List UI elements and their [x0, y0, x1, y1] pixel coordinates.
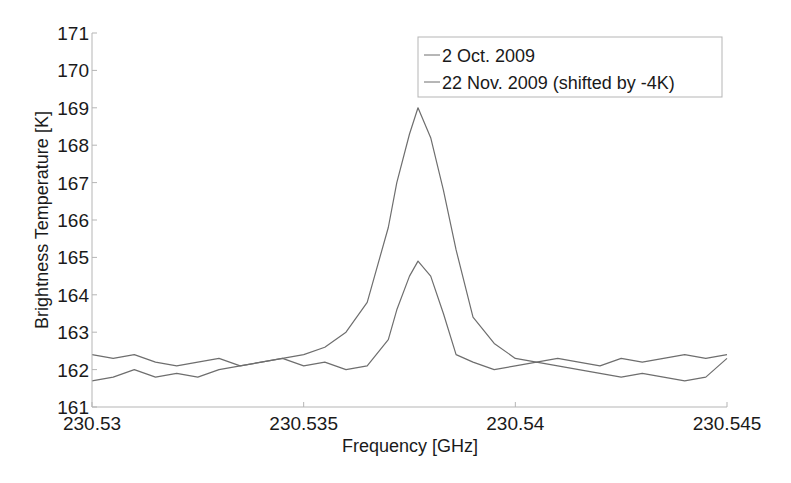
legend-label-oct: 2 Oct. 2009 [442, 46, 535, 66]
y-tick-label: 167 [57, 173, 89, 194]
x-tick-label: 230.54 [486, 413, 545, 434]
series-layer [92, 108, 727, 381]
y-axis-title: Brightness Temperature [K] [32, 111, 52, 329]
series-line-oct-2009 [92, 261, 727, 381]
x-tick-label: 230.545 [693, 413, 762, 434]
y-tick-label: 169 [57, 98, 89, 119]
x-tick-label: 230.535 [269, 413, 338, 434]
y-tick-label: 163 [57, 322, 89, 343]
chart: 161162163164165166167168169170171 230.53… [0, 0, 791, 483]
y-tick-label: 166 [57, 210, 89, 231]
x-axis-title: Frequency [GHz] [342, 436, 478, 456]
x-tick-label: 230.53 [63, 413, 121, 434]
y-tick-label: 164 [57, 285, 89, 306]
y-tick-label: 168 [57, 135, 89, 156]
legend: 2 Oct. 2009 22 Nov. 2009 (shifted by -4K… [418, 37, 722, 97]
y-tick-label: 170 [57, 60, 89, 81]
y-ticks: 161162163164165166167168169170171 [57, 23, 97, 418]
legend-label-nov: 22 Nov. 2009 (shifted by -4K) [442, 73, 675, 93]
y-tick-label: 165 [57, 247, 89, 268]
y-tick-label: 171 [57, 23, 89, 44]
series-line-nov-2009 [92, 108, 727, 381]
y-tick-label: 162 [57, 360, 89, 381]
